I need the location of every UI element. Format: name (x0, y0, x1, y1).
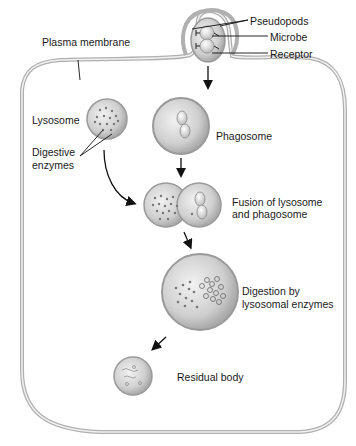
phagosome (153, 98, 209, 154)
label-digestive-enzymes-2: enzymes (32, 159, 74, 171)
arrow-fusion-to-digestion (184, 232, 190, 246)
label-plasma-membrane: Plasma membrane (42, 36, 130, 48)
top-leader-lines (78, 20, 268, 80)
label-receptor: Receptor (270, 48, 313, 60)
digesting-vesicle (162, 254, 238, 330)
label-phagosome: Phagosome (216, 130, 272, 142)
label-lysosome: Lysosome (32, 114, 79, 126)
lysosome (87, 99, 127, 139)
label-microbe: Microbe (270, 31, 307, 43)
arrow-digestion-to-residual (154, 337, 166, 348)
arrow-lysosome-to-fusion (104, 150, 133, 203)
label-residual-body: Residual body (177, 371, 244, 383)
label-fusion-2: and phagosome (232, 208, 307, 220)
label-digestion-1: Digestion by (242, 285, 300, 297)
residual-body (114, 357, 152, 395)
label-pseudopods: Pseudopods (250, 15, 308, 27)
label-digestive-enzymes-1: Digestive (32, 146, 75, 158)
fused-vesicles (144, 183, 221, 227)
label-digestion-2: lysosomal enzymes (242, 298, 334, 310)
label-fusion-1: Fusion of lysosome (232, 196, 322, 208)
